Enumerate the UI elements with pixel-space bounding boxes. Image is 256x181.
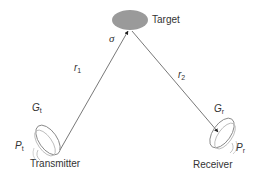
path-r2-line bbox=[132, 31, 218, 132]
path-r1-line bbox=[60, 31, 128, 150]
transmitter-dish-icon bbox=[31, 121, 65, 161]
transmitter-label: Transmitter bbox=[30, 159, 80, 169]
diagram-graphics bbox=[0, 0, 256, 181]
receiver-power-label: Pr bbox=[236, 143, 245, 154]
receiver-gain-label: Gr bbox=[214, 104, 224, 115]
transmitter-power-label: Pt bbox=[15, 141, 24, 152]
radar-diagram: Target σ r1 r2 Gt Pt Transmitter Gr Pr R… bbox=[0, 0, 256, 181]
cross-section-label: σ bbox=[109, 33, 114, 44]
path-r1-label: r1 bbox=[74, 63, 81, 74]
receiver-label: Receiver bbox=[193, 160, 232, 170]
target-label: Target bbox=[152, 15, 180, 25]
target-ellipse bbox=[112, 10, 148, 30]
transmitter-gain-label: Gt bbox=[32, 103, 42, 114]
path-r2-label: r2 bbox=[178, 70, 185, 81]
receiver-dish-icon bbox=[205, 114, 239, 154]
